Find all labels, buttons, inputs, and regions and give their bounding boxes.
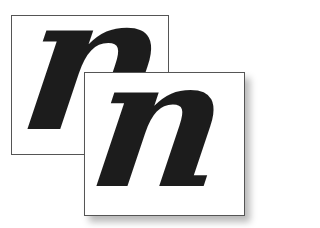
letter-n-glyph-front: n (84, 72, 239, 213)
front-letter-panel: n (84, 72, 245, 216)
